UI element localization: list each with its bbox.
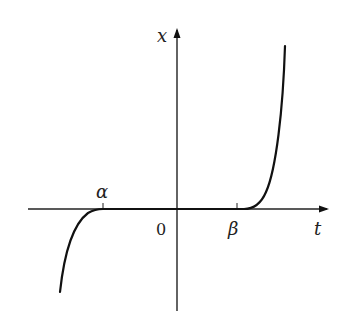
t-axis-label: t: [314, 218, 322, 239]
x-axis-label: x: [157, 25, 167, 46]
beta-label: β: [227, 218, 238, 239]
alpha-label: α: [96, 181, 108, 202]
curve: [60, 46, 285, 292]
function-graph: x t 0 α β: [0, 0, 347, 329]
origin-label: 0: [156, 220, 166, 239]
